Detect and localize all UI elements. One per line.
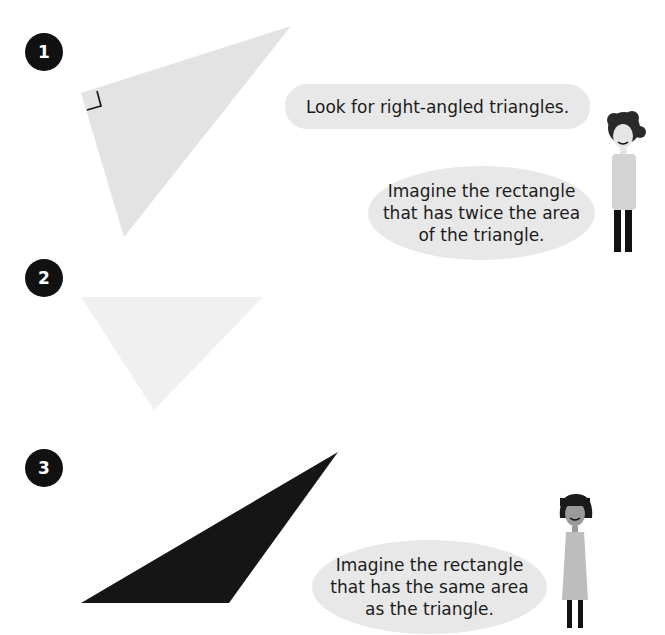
girl-character-icon xyxy=(550,488,600,633)
triangle-2 xyxy=(81,297,263,410)
speech-text: Look for right-angled triangles. xyxy=(306,96,569,118)
speech-bubble-right-angles: Look for right-angled triangles. xyxy=(285,84,590,129)
triangle-3 xyxy=(81,452,338,603)
speech-bubble-same-area: Imagine the rectangle that has the same … xyxy=(312,540,547,634)
boy-character-icon xyxy=(600,108,660,258)
speech-text: Imagine the rectangle that has the same … xyxy=(330,554,528,620)
triangle-1 xyxy=(81,26,291,237)
speech-text: Imagine the rectangle that has twice the… xyxy=(383,180,580,246)
speech-bubble-twice-area: Imagine the rectangle that has twice the… xyxy=(368,166,595,260)
